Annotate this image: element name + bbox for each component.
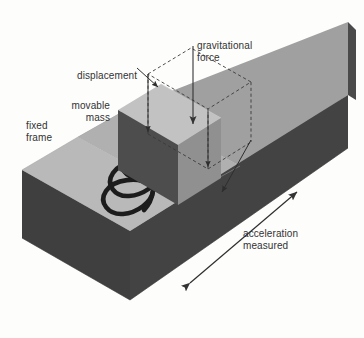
label-gravitational-force: gravitational force (197, 40, 252, 63)
label-fixed-frame: fixed frame (26, 120, 52, 143)
accelerometer-illustration (0, 0, 364, 338)
label-displacement: displacement (77, 70, 137, 82)
frame-right-arm-edge (348, 22, 356, 100)
label-acceleration-measured: acceleration measured (243, 228, 298, 251)
diagram-canvas: gravitational force displacement movable… (0, 0, 364, 338)
label-movable-mass: movable mass (0, 100, 110, 123)
